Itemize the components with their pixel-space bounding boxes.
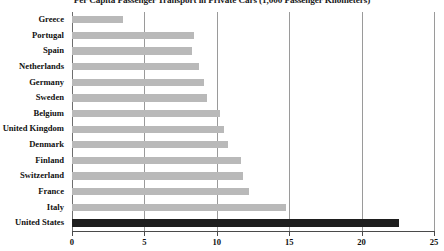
x-tick-label: 5 xyxy=(142,237,146,247)
x-tick-mark xyxy=(72,232,73,236)
bar-row xyxy=(72,137,434,153)
bar-row xyxy=(72,43,434,59)
x-tick-label: 20 xyxy=(357,237,366,247)
category-label: Portugal xyxy=(0,28,68,44)
x-axis-line xyxy=(72,231,435,232)
category-label: Spain xyxy=(0,43,68,59)
x-tick-label: 10 xyxy=(213,237,222,247)
category-label: Switzerland xyxy=(0,168,68,184)
x-tick-label: 15 xyxy=(285,237,294,247)
bar[interactable] xyxy=(72,157,241,164)
bar-row xyxy=(72,59,434,75)
category-label: Italy xyxy=(0,200,68,216)
bar[interactable] xyxy=(72,47,192,54)
bar-row xyxy=(72,168,434,184)
bar[interactable] xyxy=(72,16,123,23)
category-axis-labels: GreecePortugalSpainNetherlandsGermanySwe… xyxy=(0,12,68,231)
bar[interactable] xyxy=(72,94,207,101)
category-label: Belgium xyxy=(0,106,68,122)
x-tick-mark xyxy=(144,232,145,236)
category-label: Greece xyxy=(0,12,68,28)
bar[interactable] xyxy=(72,110,220,117)
x-tick-mark xyxy=(434,232,435,236)
category-label: United Kingdom xyxy=(0,121,68,137)
category-label: Sweden xyxy=(0,90,68,106)
bar-row xyxy=(72,121,434,137)
bar-row xyxy=(72,12,434,28)
chart-title: Per Capita Passenger Transport in Privat… xyxy=(0,0,444,5)
x-tick-label: 0 xyxy=(70,237,74,247)
bar[interactable] xyxy=(72,188,249,195)
x-tick-mark xyxy=(217,232,218,236)
gridline-25 xyxy=(434,12,435,231)
bar[interactable] xyxy=(72,126,224,133)
plot-area xyxy=(72,12,434,231)
x-tick-mark xyxy=(289,232,290,236)
bar-row xyxy=(72,28,434,44)
bar-chart: Per Capita Passenger Transport in Privat… xyxy=(0,0,444,251)
bar-row xyxy=(72,75,434,91)
bar[interactable] xyxy=(72,219,399,227)
category-label: United States xyxy=(0,215,68,231)
bar[interactable] xyxy=(72,79,204,86)
bar[interactable] xyxy=(72,204,286,211)
bar-row xyxy=(72,184,434,200)
category-label: Netherlands xyxy=(0,59,68,75)
bar-rows xyxy=(72,12,434,231)
bar[interactable] xyxy=(72,63,199,70)
bar-row xyxy=(72,200,434,216)
x-tick-mark xyxy=(362,232,363,236)
bar-row xyxy=(72,90,434,106)
bar[interactable] xyxy=(72,32,194,39)
bar[interactable] xyxy=(72,172,243,179)
bar-row xyxy=(72,153,434,169)
bar-row xyxy=(72,215,434,231)
category-label: Denmark xyxy=(0,137,68,153)
x-tick-label: 25 xyxy=(430,237,439,247)
category-label: France xyxy=(0,184,68,200)
bar-row xyxy=(72,106,434,122)
category-label: Finland xyxy=(0,153,68,169)
bar[interactable] xyxy=(72,141,228,148)
category-label: Germany xyxy=(0,75,68,91)
